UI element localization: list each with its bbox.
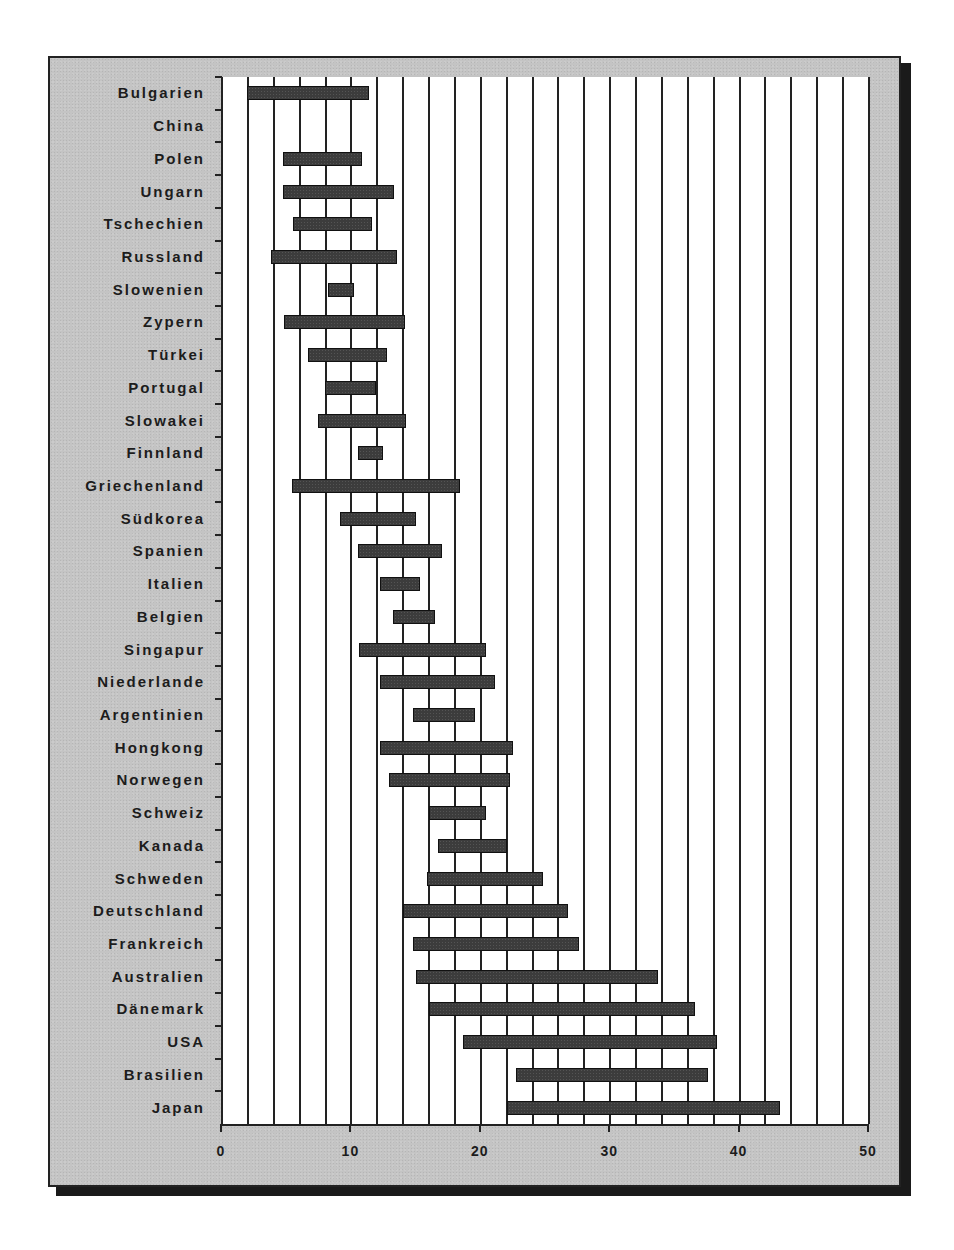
y-tick (215, 501, 222, 503)
y-tick (215, 829, 222, 831)
category-label: Ungarn (25, 183, 205, 201)
y-tick (215, 370, 222, 372)
category-label: Spanien (25, 542, 205, 560)
gridline (661, 77, 663, 1124)
category-label: Slowenien (25, 281, 205, 299)
range-bar (340, 512, 416, 526)
y-tick (215, 894, 222, 896)
category-label: Singapur (25, 641, 205, 659)
range-bar (516, 1068, 708, 1082)
gridline (790, 77, 792, 1124)
y-tick (215, 567, 222, 569)
gridline (506, 77, 508, 1124)
range-bar (427, 872, 543, 886)
category-label: Belgien (25, 608, 205, 626)
category-label: Slowakei (25, 412, 205, 430)
category-label: Italien (25, 575, 205, 593)
category-label: Bulgarien (25, 84, 205, 102)
y-tick (215, 927, 222, 929)
gridline (247, 77, 249, 1124)
x-tick-label: 20 (460, 1143, 500, 1159)
gridline (739, 77, 741, 1124)
range-bar (389, 773, 509, 787)
range-bar (283, 152, 362, 166)
x-tick (220, 1124, 222, 1132)
category-label: Schweiz (25, 804, 205, 822)
y-tick (215, 665, 222, 667)
gridline (557, 77, 559, 1124)
gridline (350, 77, 352, 1124)
category-label: Finnland (25, 444, 205, 462)
x-tick-label: 10 (330, 1143, 370, 1159)
y-tick (215, 240, 222, 242)
category-label: Portugal (25, 379, 205, 397)
y-tick (215, 1058, 222, 1060)
category-label: Deutschland (25, 902, 205, 920)
range-bar (463, 1035, 717, 1049)
y-tick (215, 76, 222, 78)
range-bar (393, 610, 434, 624)
gridline (687, 77, 689, 1124)
range-bar (380, 741, 513, 755)
x-tick (479, 1124, 481, 1132)
category-label: Tschechien (25, 215, 205, 233)
y-tick (215, 207, 222, 209)
gridline (713, 77, 715, 1124)
y-tick (215, 534, 222, 536)
range-bar (380, 675, 495, 689)
x-tick (349, 1124, 351, 1132)
y-tick (215, 763, 222, 765)
y-tick (215, 436, 222, 438)
y-tick (215, 730, 222, 732)
range-bar (318, 414, 406, 428)
y-tick (215, 338, 222, 340)
y-tick (215, 403, 222, 405)
y-tick (215, 141, 222, 143)
y-tick (215, 959, 222, 961)
range-bar (292, 479, 460, 493)
gridline (764, 77, 766, 1124)
range-bar (507, 1101, 780, 1115)
category-label: Niederlande (25, 673, 205, 691)
gridline (325, 77, 327, 1124)
category-label: Kanada (25, 837, 205, 855)
range-bar (328, 283, 354, 297)
range-bar (429, 1002, 694, 1016)
category-label: Hongkong (25, 739, 205, 757)
range-bar (413, 937, 580, 951)
category-label: Türkei (25, 346, 205, 364)
range-bar (284, 315, 404, 329)
y-tick (215, 632, 222, 634)
x-tick-label: 30 (589, 1143, 629, 1159)
range-bar (416, 970, 658, 984)
plot-area (221, 77, 868, 1126)
category-label: Brasilien (25, 1066, 205, 1084)
category-label: USA (25, 1033, 205, 1051)
range-bar (308, 348, 387, 362)
gridline (299, 77, 301, 1124)
y-tick (215, 698, 222, 700)
range-bar (403, 904, 567, 918)
category-label: Schweden (25, 870, 205, 888)
gridline (480, 77, 482, 1124)
category-label: China (25, 117, 205, 135)
gridline (868, 77, 870, 1124)
category-label: Japan (25, 1099, 205, 1117)
category-label: Frankreich (25, 935, 205, 953)
range-bar (247, 86, 369, 100)
gridline (454, 77, 456, 1124)
y-tick (215, 174, 222, 176)
x-tick-label: 50 (848, 1143, 888, 1159)
y-tick (215, 861, 222, 863)
category-label: Norwegen (25, 771, 205, 789)
category-label: Polen (25, 150, 205, 168)
gridline (273, 77, 275, 1124)
category-label: Südkorea (25, 510, 205, 528)
range-bar (293, 217, 372, 231)
category-label: Russland (25, 248, 205, 266)
gridline (635, 77, 637, 1124)
range-bar (359, 643, 486, 657)
x-tick (867, 1124, 869, 1132)
range-bar (380, 577, 420, 591)
gridline (376, 77, 378, 1124)
